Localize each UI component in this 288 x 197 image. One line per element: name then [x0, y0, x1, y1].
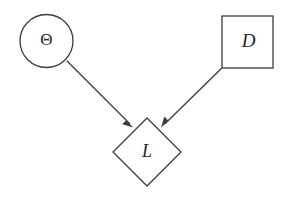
node-chance-theta[interactable]: Θ: [20, 15, 73, 68]
decision-node-label: D: [241, 30, 256, 51]
node-decision-d[interactable]: D: [222, 16, 273, 68]
diagram-canvas: Θ D L: [0, 0, 288, 197]
edge-theta-to-loss-line: [67, 61, 130, 124]
edge-theta-to-loss: [67, 61, 134, 128]
edge-decision-to-loss-line: [165, 68, 222, 124]
utility-node-label: L: [141, 141, 152, 161]
edge-decision-to-loss: [161, 68, 222, 128]
chance-node-label: Θ: [40, 30, 52, 49]
node-utility-l[interactable]: L: [113, 118, 181, 186]
influence-diagram: Θ D L: [0, 0, 288, 197]
